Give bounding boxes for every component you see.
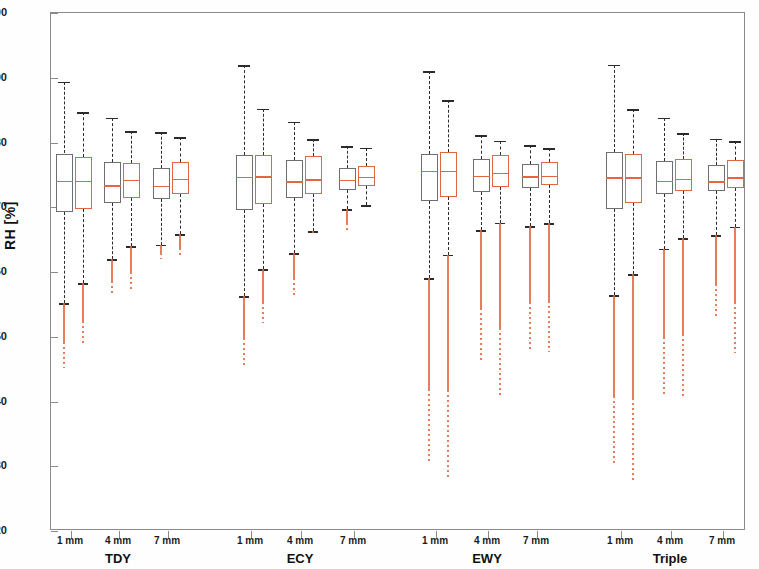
whisker-lower — [64, 212, 65, 303]
outlier-points — [447, 390, 448, 480]
whisker-cap-upper — [174, 137, 186, 139]
outlier-tail — [663, 249, 664, 338]
x-axis-tick-label: 1 mm — [422, 535, 448, 546]
median-line — [727, 177, 744, 178]
whisker-cap-upper — [543, 148, 555, 150]
median-line — [656, 181, 673, 182]
whisker-lower — [294, 198, 295, 253]
outlier-tail — [613, 295, 614, 396]
median-line — [172, 179, 189, 180]
whisker-lower — [180, 194, 181, 234]
outlier-tail — [548, 223, 549, 300]
whisker-lower — [366, 186, 367, 205]
box — [75, 157, 92, 209]
x-axis-tick-label: 7 mm — [709, 535, 735, 546]
whisker-cap-upper — [608, 65, 620, 67]
box — [440, 152, 457, 197]
outlier-tail — [715, 235, 716, 284]
median-line — [56, 181, 73, 182]
y-axis-tick-mark — [51, 143, 58, 144]
box — [236, 155, 253, 210]
whisker-upper — [64, 82, 65, 154]
whisker-cap-upper — [125, 131, 137, 133]
whisker-cap-upper — [524, 145, 536, 147]
outlier-points — [548, 301, 549, 353]
box — [56, 154, 73, 212]
whisker-lower — [633, 203, 634, 274]
y-axis-tick-label: 30 — [0, 459, 7, 471]
whisker-upper — [530, 145, 531, 164]
whisker-upper — [83, 112, 84, 157]
whisker-upper — [716, 139, 717, 165]
outlier-points — [663, 337, 664, 396]
median-line — [675, 179, 692, 180]
whisker-upper — [549, 148, 550, 162]
whisker-cap-upper — [475, 135, 487, 137]
whisker-lower — [664, 194, 665, 248]
outlier-points — [346, 223, 347, 232]
median-line — [236, 177, 253, 178]
group-label: EWY — [472, 551, 502, 566]
box — [727, 160, 744, 188]
outlier-tail — [243, 296, 244, 338]
x-axis-tick-label: 4 mm — [287, 535, 313, 546]
outlier-tail — [82, 283, 83, 321]
median-line — [305, 179, 322, 180]
y-axis-tick-mark — [51, 402, 58, 403]
outlier-points — [293, 278, 294, 295]
median-line — [339, 180, 356, 181]
whisker-cap-upper — [341, 146, 353, 148]
whisker-upper — [131, 131, 132, 162]
outlier-tail — [262, 269, 263, 301]
box — [153, 168, 170, 199]
group-label: Triple — [653, 551, 688, 566]
whisker-cap-upper — [77, 112, 89, 114]
y-axis-tick-mark — [51, 466, 58, 467]
whisker-lower — [83, 209, 84, 283]
whisker-upper — [683, 133, 684, 158]
whisker-lower — [347, 190, 348, 209]
whisker-upper — [161, 132, 162, 168]
box — [541, 162, 558, 185]
outlier-points — [63, 342, 64, 368]
outlier-tail — [160, 245, 161, 254]
median-line — [153, 186, 170, 187]
outlier-points — [499, 328, 500, 398]
outlier-tail — [346, 209, 347, 223]
whisker-upper — [500, 141, 501, 155]
box — [708, 165, 725, 192]
median-line — [75, 181, 92, 182]
outlier-tail — [130, 246, 131, 272]
whisker-upper — [614, 65, 615, 152]
y-axis-tick-label: 40 — [0, 395, 7, 407]
boxplot-figure: RH [%] 2030405060708090100 1 mm4 mm7 mm1… — [0, 0, 759, 569]
whisker-cap-upper — [58, 82, 70, 84]
outlier-points — [243, 338, 244, 366]
x-axis-tick-label: 4 mm — [474, 535, 500, 546]
median-line — [625, 177, 642, 178]
whisker-upper — [633, 109, 634, 154]
median-line — [522, 176, 539, 177]
group-label: TDY — [105, 551, 131, 566]
outlier-points — [529, 302, 530, 353]
outlier-tail — [632, 274, 633, 398]
whisker-cap-upper — [307, 139, 319, 141]
outlier-tail — [529, 226, 530, 302]
whisker-cap-upper — [257, 109, 269, 111]
whisker-lower — [500, 187, 501, 223]
outlier-points — [82, 321, 83, 346]
outlier-tail — [499, 223, 500, 328]
outlier-points — [111, 281, 112, 296]
whisker-cap-upper — [494, 141, 506, 143]
outlier-points — [480, 308, 481, 360]
median-line — [606, 177, 623, 178]
y-axis-tick-label: 50 — [0, 330, 7, 342]
x-axis-tick-label: 7 mm — [340, 535, 366, 546]
y-axis-tick-label: 70 — [0, 200, 7, 212]
x-axis-tick-label: 1 mm — [57, 535, 83, 546]
whisker-upper — [429, 71, 430, 154]
whisker-cap-upper — [155, 132, 167, 134]
outlier-points — [715, 284, 716, 316]
outlier-points — [613, 396, 614, 463]
outlier-points — [428, 389, 429, 463]
